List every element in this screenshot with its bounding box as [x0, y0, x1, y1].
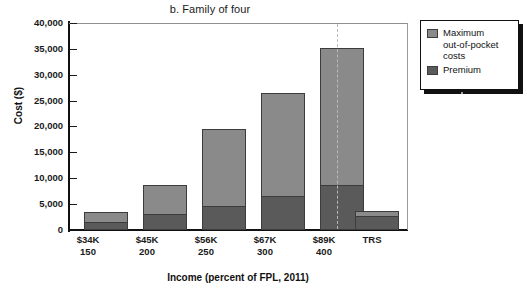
y-tick-label-20000: 20,000: [0, 121, 63, 131]
x-label-45k: $45K 200: [121, 234, 173, 258]
bar-segment-premium: [355, 216, 399, 230]
chart-figure: b. Family of four 40,000 35,000 30,000 2…: [0, 0, 527, 296]
legend-swatch-icon-oop: [427, 29, 438, 38]
x-label-trs: TRS: [346, 234, 398, 246]
y-tick-label-0: 0: [0, 225, 63, 235]
y-tick-label-40000: 40,000: [0, 18, 63, 28]
bar-group-trs: [355, 211, 399, 230]
y-tick-label-25000: 25,000: [0, 96, 63, 106]
bar-segment-premium: [84, 222, 128, 230]
y-tick-label-35000: 35,000: [0, 44, 63, 54]
bar-segment-oop: [320, 48, 364, 186]
x-label-89k: $89K 400: [298, 234, 350, 258]
bar-segment-premium: [143, 214, 187, 230]
y-tick-label-5000: 5,000: [0, 199, 63, 209]
legend-label-premium: Premium: [443, 64, 481, 76]
x-axis-title: Income (percent of FPL, 2011): [68, 272, 408, 283]
bar-group-34k: [84, 212, 128, 230]
legend-label-oop: Maximum out-of-pocket costs: [443, 27, 498, 62]
bar-segment-oop: [143, 185, 187, 215]
legend-item-premium: Premium: [427, 64, 513, 76]
bar-group-67k: [261, 93, 305, 230]
x-label-56k: $56K 250: [180, 234, 232, 258]
y-tick-label-15000: 15,000: [0, 147, 63, 157]
chart-legend: Maximum out-of-pocket costs Premium: [420, 20, 519, 90]
bar-segment-oop: [202, 129, 246, 207]
scan-artifact-speck: [461, 92, 463, 94]
x-label-67k: $67K 300: [239, 234, 291, 258]
legend-item-maximum-out-of-pocket-costs: Maximum out-of-pocket costs: [427, 27, 513, 62]
y-tick-label-30000: 30,000: [0, 70, 63, 80]
chart-title: b. Family of four: [0, 3, 420, 15]
plot-area: [68, 23, 408, 230]
legend-swatch-icon-premium: [427, 66, 438, 75]
y-axis-title: Cost ($): [13, 46, 24, 166]
y-tick-label-10000: 10,000: [0, 173, 63, 183]
category-divider-dashed: [337, 24, 338, 229]
bar-segment-premium: [261, 196, 305, 230]
x-label-34k: $34K 150: [62, 234, 114, 258]
bar-group-45k: [143, 185, 187, 230]
bar-group-89k: [320, 48, 364, 230]
bar-group-56k: [202, 129, 246, 230]
bar-segment-premium: [202, 206, 246, 230]
bar-segment-oop: [261, 93, 305, 197]
